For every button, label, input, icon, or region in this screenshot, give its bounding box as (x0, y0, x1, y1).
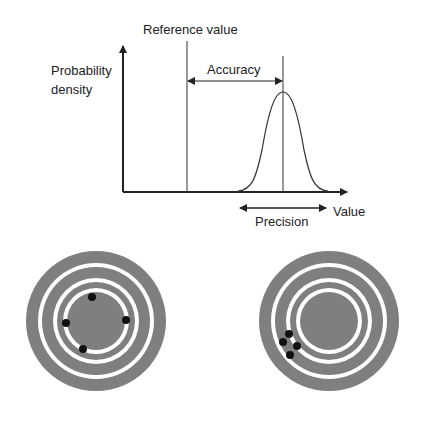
accuracy-label: Accuracy (207, 62, 261, 77)
y-axis-label-2: density (51, 82, 93, 97)
hit-dot (293, 342, 301, 350)
hit-dot (79, 345, 87, 353)
y-axis-label-1: Probability (51, 63, 112, 78)
reference-label: Reference value (143, 22, 238, 37)
hit-dot (285, 330, 293, 338)
x-axis-label: Value (333, 204, 365, 219)
target-precise-inaccurate (259, 251, 399, 391)
target-accurate-imprecise (26, 251, 166, 391)
hit-dot (279, 338, 287, 346)
precision-label: Precision (255, 214, 308, 229)
accuracy-precision-diagram: Reference value Accuracy Probability den… (0, 0, 426, 424)
probability-graph: Reference value Accuracy Probability den… (51, 22, 365, 229)
hit-dot (88, 293, 96, 301)
hit-dot (286, 351, 294, 359)
hit-dot (122, 316, 130, 324)
hit-dot (62, 319, 70, 327)
